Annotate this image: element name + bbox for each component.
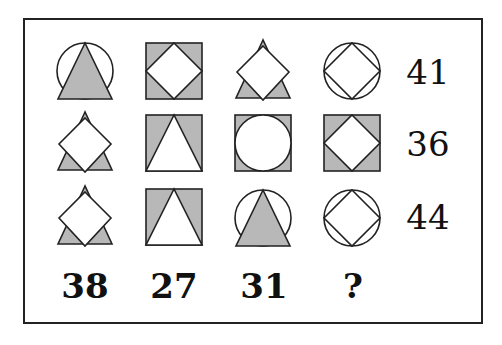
gray-square-with-white-diamond-icon xyxy=(322,113,382,173)
circle-with-gray-triangle-icon xyxy=(55,41,115,101)
gray-square-with-white-triangle-icon xyxy=(144,187,204,247)
circle-with-inscribed-diamond-icon xyxy=(322,41,382,101)
row-1-sum: 41 xyxy=(393,52,463,92)
white-diamond-over-gray-triangle-icon xyxy=(55,186,115,246)
gray-square-with-white-circle-icon xyxy=(233,113,293,173)
circle-with-inscribed-diamond-icon xyxy=(322,188,382,248)
column-2-sum: 27 xyxy=(139,266,209,306)
column-1-sum: 38 xyxy=(50,266,120,306)
unknown-column-sum: ? xyxy=(318,266,388,306)
white-diamond-over-gray-triangle-icon xyxy=(233,40,293,100)
gray-square-with-white-diamond-icon xyxy=(144,41,204,101)
column-3-sum: 31 xyxy=(229,266,299,306)
gray-square-with-white-triangle-icon xyxy=(144,113,204,173)
white-diamond-over-gray-triangle-icon xyxy=(55,112,115,172)
row-3-sum: 44 xyxy=(393,197,463,237)
circle-with-gray-triangle-icon xyxy=(233,188,293,248)
row-2-sum: 36 xyxy=(393,124,463,164)
